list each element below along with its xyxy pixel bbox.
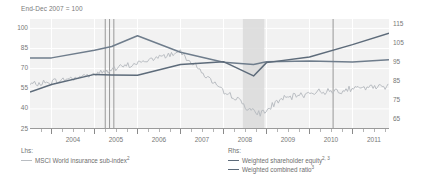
x-tick xyxy=(137,129,138,134)
x-tick xyxy=(363,129,364,132)
y-tick-right-115: 115 xyxy=(393,21,403,28)
legend-item-msci: MSCI World insurance sub-index2 xyxy=(21,156,130,165)
y-tick-left-85: 85 xyxy=(21,45,28,52)
x-tick xyxy=(41,129,42,132)
x-tick xyxy=(213,129,214,132)
chart-unit-note: End-Dec 2007 = 100 xyxy=(21,5,83,12)
legend-right-title: Rhs: xyxy=(228,146,330,155)
y-tick-right-75: 75 xyxy=(393,97,400,104)
y-tick-left-100: 100 xyxy=(17,25,28,32)
y-tick-right-85: 85 xyxy=(393,78,400,85)
x-tick xyxy=(309,129,310,134)
x-tick xyxy=(245,129,246,132)
x-tick xyxy=(288,129,289,132)
legend-msci-footnote: 2 xyxy=(127,156,130,161)
y-tick-right-105: 105 xyxy=(393,40,404,47)
legend-left-title: Lhs: xyxy=(21,146,130,155)
y-axis-right: 11510595857565 xyxy=(393,19,419,129)
x-tick xyxy=(266,129,267,134)
x-tick xyxy=(94,129,95,134)
x-tick xyxy=(51,129,52,134)
legend-label-equity: Weighted shareholder equity2, 3 xyxy=(242,156,330,165)
x-tick xyxy=(352,129,353,134)
x-tick xyxy=(84,129,85,132)
x-tick xyxy=(385,129,386,132)
x-tick-label-2008: 2008 xyxy=(238,136,252,143)
legend-equity-footnote: 2, 3 xyxy=(322,156,330,161)
x-tick-label-2005: 2005 xyxy=(109,136,123,143)
legend-label-combined: Weighted combined ratio3 xyxy=(242,165,314,174)
x-tick xyxy=(159,129,160,132)
x-tick-label-2006: 2006 xyxy=(152,136,166,143)
x-tick xyxy=(191,129,192,132)
plot-background xyxy=(30,19,389,129)
legend-line-icon-equity xyxy=(228,160,239,161)
x-tick-label-2011: 2011 xyxy=(367,136,381,143)
plot-svg xyxy=(30,19,389,129)
x-tick-label-2007: 2007 xyxy=(195,136,209,143)
x-tick xyxy=(170,129,171,132)
y-tick-left-70: 70 xyxy=(21,65,28,72)
legend-label-msci: MSCI World insurance sub-index2 xyxy=(35,156,130,165)
x-tick xyxy=(62,129,63,132)
legend-line-icon-combined xyxy=(228,169,239,170)
x-tick-label-2010: 2010 xyxy=(324,136,338,143)
legend-left: Lhs: MSCI World insurance sub-index2 xyxy=(21,146,130,165)
y-tick-left-40: 40 xyxy=(21,105,28,112)
x-tick xyxy=(180,129,181,134)
x-tick xyxy=(277,129,278,132)
legend-item-combined: Weighted combined ratio3 xyxy=(228,165,330,174)
x-tick xyxy=(105,129,106,132)
x-tick xyxy=(374,129,375,132)
y-tick-left-55: 55 xyxy=(21,85,28,92)
x-tick-label-2004: 2004 xyxy=(66,136,80,143)
x-tick xyxy=(148,129,149,132)
y-axis-left: 1008570554025 xyxy=(8,19,28,129)
legend-right: Rhs: Weighted shareholder equity2, 3 Wei… xyxy=(228,146,330,174)
x-tick xyxy=(73,129,74,132)
x-axis: 20042005200620072008200920102011 xyxy=(30,129,389,145)
legend-line-icon-msci xyxy=(21,160,32,161)
x-tick xyxy=(331,129,332,132)
x-tick xyxy=(299,129,300,132)
x-tick-label-2009: 2009 xyxy=(281,136,295,143)
x-tick xyxy=(320,129,321,132)
y-tick-right-95: 95 xyxy=(393,59,400,66)
x-tick xyxy=(127,129,128,132)
legend-item-equity: Weighted shareholder equity2, 3 xyxy=(228,156,330,165)
insurance-chart: End-Dec 2007 = 100 1008570554025 1151059… xyxy=(0,0,438,182)
legend-combined-footnote: 3 xyxy=(312,165,315,170)
x-tick xyxy=(116,129,117,132)
plot-area xyxy=(30,19,389,129)
x-tick xyxy=(342,129,343,132)
y-tick-left-25: 25 xyxy=(21,126,28,133)
x-tick xyxy=(223,129,224,134)
y-tick-right-65: 65 xyxy=(393,116,400,123)
x-tick xyxy=(234,129,235,132)
x-tick xyxy=(256,129,257,132)
x-tick xyxy=(202,129,203,132)
